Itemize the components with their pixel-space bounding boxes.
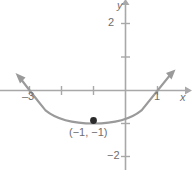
x-axis-label: x [180,92,186,103]
parabola-curve [21,75,171,124]
y-axis-label: y [117,0,123,11]
x-axis-arrowhead [185,87,192,95]
coordinate-plane-svg [0,0,192,170]
x-tick-label-neg3: –3 [22,91,34,102]
graph-figure: y x 2 −2 –3 1 (−1, −1) [0,0,192,170]
y-tick-label-neg2: −2 [107,150,120,161]
x-tick-label-1: 1 [154,91,160,102]
vertex-coordinate-label: (−1, −1) [69,127,108,138]
vertex-point-marker [90,117,97,124]
y-tick-label-2: 2 [108,17,114,28]
